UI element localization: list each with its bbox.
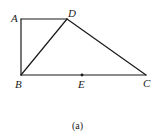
figure-canvas: A D B E C (a) [0,0,161,138]
geometry-figure: A D B E C (a) [0,0,161,138]
label-point-c: C [143,77,151,89]
point-e-marker [81,74,84,77]
label-point-a: A [10,12,18,24]
label-point-e: E [77,78,85,90]
segment-dc [67,19,146,75]
label-point-b: B [15,78,22,90]
label-point-d: D [67,7,76,19]
segment-bd [21,19,67,75]
figure-caption: (a) [72,120,83,132]
